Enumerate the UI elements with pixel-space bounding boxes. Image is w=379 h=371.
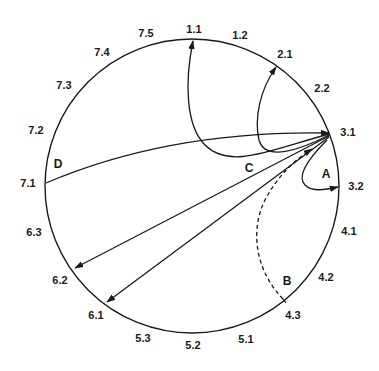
edge-C-3.1-to-6.2: [75, 136, 329, 268]
pos-label: 7.2: [28, 124, 43, 136]
pos-label: 4.2: [318, 271, 333, 283]
pos-label: 7.3: [56, 79, 71, 91]
pos-label: 1.1: [186, 23, 201, 35]
path-label-C: C: [245, 161, 254, 175]
pos-label: 2.1: [277, 48, 292, 60]
pos-label: 6.2: [52, 274, 67, 286]
pos-label: 4.1: [341, 225, 356, 237]
pos-label: 1.2: [232, 29, 247, 41]
pos-label: 5.3: [135, 332, 150, 344]
transition-diagram: 1.1 1.2 2.1 2.2 3.1 3.2 4.1 4.2 4.3 5.1 …: [0, 0, 379, 371]
position-labels: 1.1 1.2 2.1 2.2 3.1 3.2 4.1 4.2 4.3 5.1 …: [20, 23, 363, 351]
pos-label: 7.1: [20, 177, 35, 189]
path-label-A: A: [322, 167, 331, 181]
pos-label: 3.2: [348, 180, 363, 192]
pos-label: 3.1: [340, 126, 355, 138]
pos-label: 5.1: [238, 333, 253, 345]
path-labels: A B C D: [54, 157, 331, 288]
outer-circle: [45, 39, 339, 333]
pos-label: 6.1: [88, 309, 103, 321]
pos-label: 4.3: [285, 309, 300, 321]
pos-label: 2.2: [314, 82, 329, 94]
path-label-B: B: [283, 274, 292, 288]
path-label-D: D: [54, 157, 63, 171]
pos-label: 7.4: [94, 46, 110, 58]
pos-label: 5.2: [185, 339, 200, 351]
pos-label: 6.3: [26, 226, 41, 238]
pos-label: 7.5: [138, 27, 153, 39]
